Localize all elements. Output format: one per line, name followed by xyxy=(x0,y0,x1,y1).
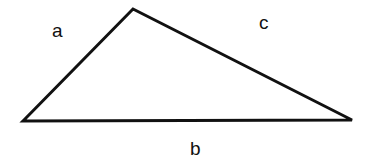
triangle-shape xyxy=(23,9,352,121)
side-label-a: a xyxy=(52,20,63,41)
side-label-b: b xyxy=(190,138,201,159)
side-label-c: c xyxy=(259,12,269,33)
triangle-diagram: a c b xyxy=(0,0,370,160)
